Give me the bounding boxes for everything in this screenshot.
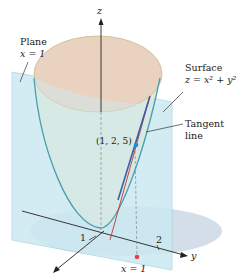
surface-title: Surface — [185, 62, 222, 73]
foot-label: x = 1 — [121, 263, 146, 274]
z-axis-arrow — [99, 18, 104, 25]
tick-label-y: 2 — [156, 234, 162, 245]
tick-label-x: 1 — [80, 232, 86, 243]
foot-point — [135, 255, 140, 260]
tangency-point — [134, 143, 139, 148]
point-label: (1, 2, 5) — [96, 136, 132, 147]
y-axis-arrow — [180, 252, 188, 258]
z-axis-label: z — [97, 5, 102, 16]
y-axis-label: y — [191, 250, 196, 261]
surface-equation: z = x² + y² — [185, 74, 236, 85]
plane-equation: x = 1 — [20, 48, 45, 59]
tangent-title: Tangent — [185, 118, 224, 129]
paraboloid-diagram: Plane x = 1 z Surface z = x² + y² Tangen… — [0, 0, 240, 276]
plane-title: Plane — [20, 36, 47, 47]
tangent-title-line: line — [185, 130, 203, 141]
